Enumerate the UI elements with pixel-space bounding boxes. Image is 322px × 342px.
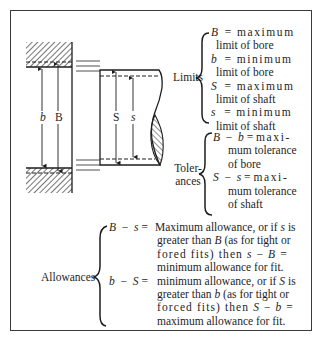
tolerances-label: Toler- ances (172, 162, 204, 188)
tolerances-definitions: B − b = maxi- mum tolerance of bore S − … (213, 131, 313, 211)
label-b: b (39, 111, 47, 124)
limits-label: Limits (173, 71, 203, 84)
limit-item: s= minimum (211, 106, 311, 119)
bore-lower-section (26, 168, 72, 193)
limit-item: S= maximum (211, 80, 311, 93)
label-s: s (130, 111, 136, 124)
bore-upper-section (26, 42, 72, 67)
extension-lines (76, 61, 100, 170)
allowances-label: Allowances (41, 271, 95, 284)
allowance-item: b − S =minimum allowance, or if S is (109, 275, 314, 288)
tolerance-item: S − s = maxi- (213, 171, 313, 184)
limits-definitions: B= maximum limit of bore b= minimum limi… (211, 26, 311, 133)
label-B: B (54, 111, 64, 124)
allowance-item: B − s =Maximum allowance, or if s is (109, 221, 314, 234)
limit-item: B= maximum (211, 26, 311, 39)
allowances-brace (94, 226, 107, 326)
label-S: S (112, 111, 120, 124)
allowances-definitions: B − s =Maximum allowance, or if s is gre… (109, 221, 314, 328)
limit-item: b= minimum (211, 53, 311, 66)
tolerance-item: B − b = maxi- (213, 131, 313, 144)
